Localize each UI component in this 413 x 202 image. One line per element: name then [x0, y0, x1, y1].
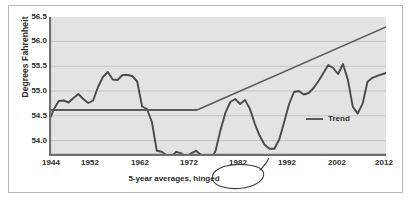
x-tick-label: 1952 [70, 158, 110, 167]
chart-svg [49, 17, 386, 156]
y-tick-label: 56.0 [21, 37, 47, 45]
handdrawn-ellipse-annotation [205, 158, 285, 192]
x-tick-label: 2002 [317, 158, 357, 167]
legend-trend-swatch-icon [306, 118, 323, 120]
x-tick-label: 1962 [120, 158, 160, 167]
chart-figure-inner: Degrees Fahrenheit 56.5 56.0 55.5 55.0 5… [9, 6, 402, 192]
y-tick-label: 55.5 [21, 62, 47, 70]
legend-trend-label: Trend [328, 114, 350, 123]
y-tick-label: 54.5 [21, 112, 47, 120]
chart-figure: Degrees Fahrenheit 56.5 56.0 55.5 55.0 5… [8, 5, 403, 193]
chart-legend: Trend [306, 114, 350, 123]
plot-area [49, 17, 386, 156]
x-tick-label: 1944 [31, 158, 71, 167]
gridlines [49, 41, 386, 140]
y-tick-label: 55.0 [21, 87, 47, 95]
x-tick-label: 2012 [364, 158, 404, 167]
x-tick-label: 1972 [169, 158, 209, 167]
y-tick-label: 54.0 [21, 137, 47, 145]
y-tick-label: 56.5 [21, 13, 47, 21]
x-axis-caption: 5-year averages, hinged [9, 174, 339, 183]
